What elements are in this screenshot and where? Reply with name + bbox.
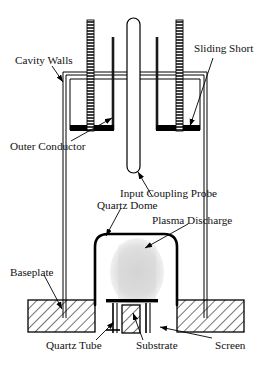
label-plasma-discharge: Plasma Discharge xyxy=(152,215,232,227)
figure-canvas: Cavity Walls Sliding Short Outer Conduct… xyxy=(0,0,277,369)
label-outer-conductor: Outer Conductor xyxy=(10,141,86,153)
label-screen: Screen xyxy=(215,340,245,352)
leader-cavity-walls xyxy=(52,66,63,82)
threaded-rod-right xyxy=(176,20,183,131)
leader-quartz-dome xyxy=(106,208,121,236)
input-coupling-probe xyxy=(127,18,140,173)
baseplate-right xyxy=(177,300,244,332)
label-sliding-short: Sliding Short xyxy=(194,43,253,55)
baseplate-left xyxy=(28,300,95,332)
leader-plasma-discharge xyxy=(145,224,188,248)
threaded-rod-left xyxy=(87,20,94,131)
label-substrate: Substrate xyxy=(136,340,178,352)
plasma-discharge xyxy=(110,238,164,306)
label-baseplate: Baseplate xyxy=(10,267,54,279)
substrate xyxy=(122,305,140,333)
label-cavity-walls: Cavity Walls xyxy=(15,55,73,67)
label-input-coupling-probe: Input Coupling Probe xyxy=(120,188,217,200)
leader-quartz-tube xyxy=(96,322,114,340)
leader-sliding-short xyxy=(190,58,213,126)
screen xyxy=(106,299,158,302)
label-quartz-tube: Quartz Tube xyxy=(46,340,102,352)
label-quartz-dome: Quartz Dome xyxy=(97,200,158,212)
